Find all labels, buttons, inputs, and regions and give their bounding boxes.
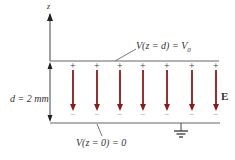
minus-sign: − (164, 109, 169, 119)
minus-sign: − (189, 109, 194, 119)
field-arrows (70, 70, 219, 111)
z-axis-label: z (47, 2, 50, 11)
plus-sign: + (189, 60, 195, 71)
capacitor-diagram (0, 0, 235, 160)
plus-sign: + (70, 60, 76, 71)
minus-sign: − (140, 109, 145, 119)
plus-sign: + (164, 60, 170, 71)
minus-sign: − (117, 109, 122, 119)
electric-field-label: E (221, 90, 228, 102)
plus-sign: + (213, 60, 219, 71)
dimension-arrow-down-icon (48, 115, 53, 122)
dimension-arrow-up-icon (48, 62, 53, 69)
minus-sign: − (70, 109, 75, 119)
plus-sign: + (94, 60, 100, 71)
minus-sign: − (94, 109, 99, 119)
ground-icon (174, 123, 188, 137)
plus-sign: + (117, 60, 123, 71)
top-plate-potential-label: V(z = d) = V0 (136, 40, 191, 54)
z-axis-arrowhead-icon (47, 13, 53, 21)
plus-sign: + (140, 60, 146, 71)
bottom-label-leader (97, 124, 102, 136)
minus-sign: − (213, 109, 218, 119)
plate-separation-label: d = 2 mm (10, 93, 49, 104)
bottom-plate-potential-label: V(z = 0) = 0 (76, 137, 126, 148)
